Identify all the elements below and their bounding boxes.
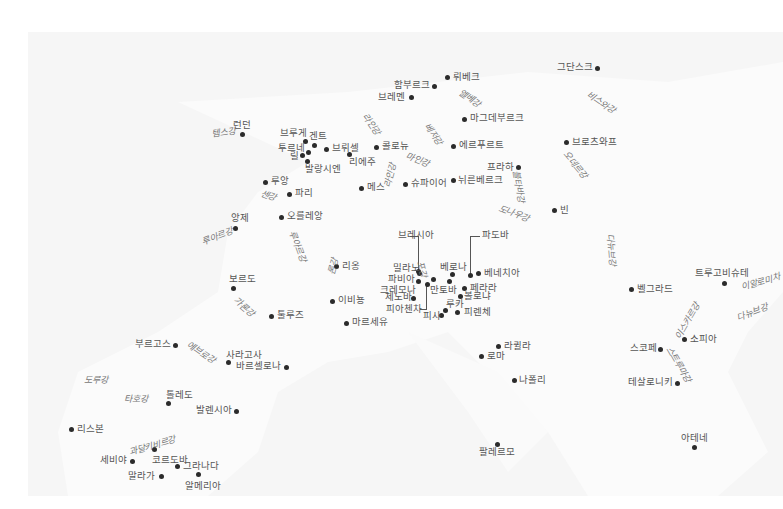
city-marker-icon[interactable] — [324, 147, 329, 152]
city-marker-icon[interactable] — [512, 378, 517, 383]
city-label[interactable]: 루카 — [446, 299, 464, 309]
city-label[interactable]: 에르푸르트 — [459, 140, 504, 150]
city-label[interactable]: 리스본 — [77, 424, 104, 434]
city-marker-icon[interactable] — [69, 427, 74, 432]
city-marker-icon[interactable] — [166, 401, 171, 406]
city-marker-icon[interactable] — [409, 95, 414, 100]
city-marker-icon[interactable] — [173, 343, 178, 348]
city-label[interactable]: 그단스크 — [557, 62, 593, 72]
city-marker-icon[interactable] — [432, 84, 437, 89]
city-marker-icon[interactable] — [263, 180, 268, 185]
city-label[interactable]: 앙제 — [231, 213, 249, 223]
city-marker-icon[interactable] — [692, 445, 697, 450]
city-label[interactable]: 브로츠와프 — [572, 137, 617, 147]
city-marker-icon[interactable] — [431, 277, 436, 282]
city-marker-icon[interactable] — [269, 314, 274, 319]
city-label[interactable]: 테살로니키 — [628, 377, 673, 387]
city-label[interactable]: 브루게 — [280, 128, 307, 138]
city-marker-icon[interactable] — [451, 178, 456, 183]
city-marker-icon[interactable] — [284, 365, 289, 370]
city-label[interactable]: 팔레르모 — [479, 447, 515, 457]
city-marker-icon[interactable] — [468, 273, 473, 278]
city-marker-icon[interactable] — [722, 281, 727, 286]
city-label[interactable]: 파도바 — [482, 230, 509, 240]
city-label[interactable]: 함부르크 — [394, 80, 430, 90]
city-label[interactable]: 빈 — [560, 205, 569, 215]
city-label[interactable]: 파비아 — [388, 274, 415, 284]
city-marker-icon[interactable] — [312, 143, 317, 148]
city-label[interactable]: 브레시아 — [398, 230, 434, 240]
map-canvas[interactable]: 그단스크뤼베크함부르크브레멘마그데부르크에르푸르트브로츠와프프라하뉘른베르크슈파… — [28, 32, 783, 496]
city-label[interactable]: 오를레앙 — [287, 211, 323, 221]
city-label[interactable]: 그라나다 — [183, 461, 219, 471]
city-label[interactable]: 나폴리 — [519, 375, 546, 385]
city-marker-icon[interactable] — [330, 299, 335, 304]
city-marker-icon[interactable] — [496, 344, 501, 349]
city-label[interactable]: 볼로냐 — [464, 291, 491, 301]
city-marker-icon[interactable] — [300, 153, 305, 158]
city-marker-icon[interactable] — [675, 381, 680, 386]
city-label[interactable]: 뤼베크 — [453, 72, 480, 82]
city-label[interactable]: 라퀼라 — [504, 341, 531, 351]
city-marker-icon[interactable] — [403, 182, 408, 187]
city-label[interactable]: 보르도 — [229, 274, 256, 284]
city-label[interactable]: 브뤼셀 — [332, 143, 359, 153]
city-marker-icon[interactable] — [231, 286, 236, 291]
city-marker-icon[interactable] — [658, 347, 663, 352]
city-marker-icon[interactable] — [416, 279, 421, 284]
city-label[interactable]: 리에주 — [349, 157, 376, 167]
city-marker-icon[interactable] — [479, 354, 484, 359]
city-label[interactable]: 콜로뉴 — [382, 141, 409, 151]
city-label[interactable]: 말라가 — [128, 471, 155, 481]
city-label[interactable]: 톨레도 — [166, 390, 193, 400]
city-label[interactable]: 런던 — [233, 120, 251, 130]
city-marker-icon[interactable] — [374, 145, 379, 150]
city-marker-icon[interactable] — [425, 282, 430, 287]
city-label[interactable]: 마르세유 — [352, 317, 388, 327]
city-label[interactable]: 리옹 — [342, 261, 360, 271]
city-marker-icon[interactable] — [196, 472, 201, 477]
city-marker-icon[interactable] — [564, 140, 569, 145]
city-marker-icon[interactable] — [130, 459, 135, 464]
city-label[interactable]: 툴루즈 — [277, 310, 304, 320]
city-marker-icon[interactable] — [240, 132, 245, 137]
city-label[interactable]: 겐트 — [309, 131, 327, 141]
city-label[interactable]: 세비야 — [100, 455, 127, 465]
city-label[interactable]: 알메리아 — [185, 481, 221, 491]
city-marker-icon[interactable] — [455, 310, 460, 315]
city-label[interactable]: 프라하 — [487, 162, 514, 172]
city-label[interactable]: 이비뇽 — [338, 295, 365, 305]
city-marker-icon[interactable] — [306, 150, 311, 155]
city-marker-icon[interactable] — [344, 321, 349, 326]
city-marker-icon[interactable] — [279, 215, 284, 220]
city-marker-icon[interactable] — [476, 271, 481, 276]
city-label[interactable]: 아테네 — [681, 433, 708, 443]
city-label[interactable]: 트루고비슈테 — [695, 268, 749, 278]
city-label[interactable]: 바르셀로나 — [236, 361, 281, 371]
city-label[interactable]: 스코페 — [630, 343, 657, 353]
city-label[interactable]: 만토바 — [430, 285, 457, 295]
city-label[interactable]: 브레멘 — [378, 92, 405, 102]
city-label[interactable]: 베로나 — [440, 262, 467, 272]
city-marker-icon[interactable] — [159, 474, 164, 479]
city-label[interactable]: 벨그라드 — [637, 284, 673, 294]
city-marker-icon[interactable] — [462, 117, 467, 122]
city-label[interactable]: 발랑시엔 — [305, 164, 341, 174]
city-label[interactable]: 뉘른베르크 — [458, 175, 503, 185]
city-label[interactable]: 제노바 — [385, 292, 412, 302]
city-label[interactable]: 부르고스 — [135, 339, 171, 349]
city-label[interactable]: 슈파이어 — [411, 178, 447, 188]
city-label[interactable]: 발렌시아 — [196, 405, 232, 415]
city-marker-icon[interactable] — [175, 464, 180, 469]
city-marker-icon[interactable] — [445, 75, 450, 80]
city-label[interactable]: 로마 — [487, 351, 505, 361]
city-label[interactable]: 피렌체 — [464, 307, 491, 317]
city-marker-icon[interactable] — [451, 144, 456, 149]
city-marker-icon[interactable] — [287, 192, 292, 197]
city-marker-icon[interactable] — [226, 360, 231, 365]
city-label[interactable]: 릴 — [290, 151, 299, 161]
city-label[interactable]: 피아첸차 — [386, 304, 422, 314]
city-marker-icon[interactable] — [359, 186, 364, 191]
city-label[interactable]: 마그데부르크 — [470, 113, 524, 123]
city-label[interactable]: 파리 — [295, 188, 313, 198]
